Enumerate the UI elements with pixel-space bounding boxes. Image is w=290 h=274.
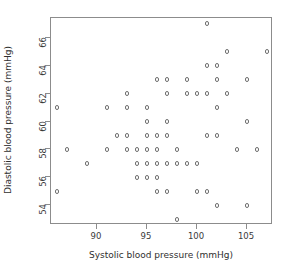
data-point — [215, 63, 219, 67]
data-point — [245, 77, 249, 81]
data-point — [245, 203, 249, 207]
x-axis-tick — [146, 224, 147, 229]
x-axis-tick-label: 90 — [91, 231, 102, 241]
y-axis-tick-label: 56 — [38, 176, 48, 187]
plot-area — [50, 17, 272, 224]
data-point — [145, 161, 149, 165]
data-point — [145, 175, 149, 179]
data-point — [205, 63, 209, 67]
data-point — [145, 105, 149, 109]
data-point — [165, 133, 169, 137]
data-point — [175, 161, 179, 165]
data-point — [235, 147, 239, 151]
data-point — [215, 203, 219, 207]
data-point — [135, 175, 139, 179]
data-point — [125, 147, 129, 151]
data-point — [155, 175, 159, 179]
data-point — [125, 105, 129, 109]
data-point — [65, 147, 69, 151]
data-point — [145, 119, 149, 123]
data-point — [155, 147, 159, 151]
data-point — [155, 189, 159, 193]
scatter-plot-figure: Systolic blood pressure (mmHg) Diastolic… — [0, 0, 290, 274]
data-point — [125, 133, 129, 137]
data-point — [155, 77, 159, 81]
data-point — [185, 161, 189, 165]
data-point — [195, 161, 199, 165]
data-point — [195, 189, 199, 193]
data-point — [265, 49, 269, 53]
data-point — [225, 91, 229, 95]
y-axis-tick-label: 60 — [38, 121, 48, 132]
data-point — [205, 21, 209, 25]
data-point — [205, 189, 209, 193]
data-point — [205, 91, 209, 95]
data-point — [215, 77, 219, 81]
data-point — [205, 133, 209, 137]
data-point — [105, 105, 109, 109]
x-axis-label: Systolic blood pressure (mmHg) — [50, 250, 272, 260]
data-points-layer — [51, 18, 271, 223]
data-point — [165, 119, 169, 123]
y-axis-tick-label: 64 — [38, 65, 48, 76]
data-point — [155, 161, 159, 165]
data-point — [165, 161, 169, 165]
data-point — [155, 133, 159, 137]
x-axis-tick-label: 105 — [238, 231, 254, 241]
data-point — [55, 189, 59, 193]
data-point — [175, 147, 179, 151]
data-point — [125, 91, 129, 95]
data-point — [185, 91, 189, 95]
data-point — [185, 77, 189, 81]
y-axis-tick-label: 66 — [38, 37, 48, 48]
data-point — [255, 147, 259, 151]
data-point — [145, 133, 149, 137]
data-point — [165, 77, 169, 81]
data-point — [85, 161, 89, 165]
data-point — [165, 189, 169, 193]
data-point — [135, 147, 139, 151]
data-point — [215, 105, 219, 109]
y-axis-tick-label: 58 — [38, 148, 48, 159]
data-point — [145, 147, 149, 151]
data-point — [165, 91, 169, 95]
data-point — [225, 49, 229, 53]
y-axis-tick-label: 62 — [38, 93, 48, 104]
data-point — [195, 91, 199, 95]
x-axis-tick — [246, 224, 247, 229]
x-axis-tick — [96, 224, 97, 229]
data-point — [175, 217, 179, 221]
x-axis-tick — [196, 224, 197, 229]
data-point — [55, 105, 59, 109]
data-point — [215, 133, 219, 137]
y-axis-tick-label: 54 — [38, 204, 48, 215]
data-point — [245, 119, 249, 123]
data-point — [115, 133, 119, 137]
data-point — [135, 161, 139, 165]
data-point — [105, 147, 109, 151]
x-axis-tick-label: 100 — [188, 231, 204, 241]
x-axis-tick-label: 95 — [141, 231, 152, 241]
y-axis-label: Diastolic blood pressure (mmHg) — [3, 46, 13, 194]
